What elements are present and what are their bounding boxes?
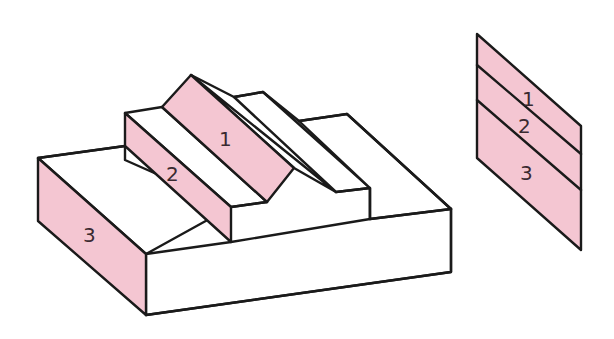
- label-face-2: 2: [166, 162, 179, 186]
- label-face-3: 3: [83, 223, 96, 247]
- stepped-block: 1 2 3: [38, 75, 451, 315]
- strip-label-3: 3: [520, 161, 533, 185]
- strip-label-2: 2: [518, 114, 531, 138]
- developed-view: 1 2 3: [477, 34, 581, 250]
- stepped-block-diagram: 1 2 3 1 2 3: [0, 0, 614, 339]
- label-face-1: 1: [219, 127, 232, 151]
- strip-label-1: 1: [522, 87, 535, 111]
